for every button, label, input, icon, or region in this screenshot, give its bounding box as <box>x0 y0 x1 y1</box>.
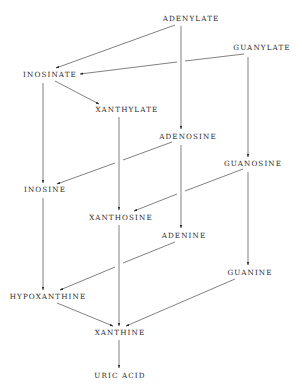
node-adenine: ADENINE <box>161 231 207 240</box>
edge-adenosine-inosine-b <box>57 163 115 184</box>
node-adenylate: ADENYLATE <box>162 14 220 23</box>
node-xanthylate: XANTHYLATE <box>96 105 159 114</box>
edge-adenosine-inosine-a <box>123 142 172 160</box>
edge-guanosine-xanthosine-b <box>134 194 177 211</box>
edge-adenine-hypoxanthine-a <box>123 242 175 263</box>
edge-adenylate-inosinate <box>56 25 175 68</box>
node-guanylate: GUANYLATE <box>233 43 290 52</box>
edge-guanine-xanthine <box>126 279 235 326</box>
node-inosine: INOSINE <box>24 185 66 194</box>
edge-hypoxanthine-xanthine <box>57 303 113 326</box>
edge-guanylate-inosinate-a <box>185 54 244 61</box>
nodes: ADENYLATE GUANYLATE INOSINATE XANTHYLATE… <box>10 14 291 380</box>
node-xanthosine: XANTHOSINE <box>89 213 153 222</box>
node-guanine: GUANINE <box>227 268 272 277</box>
node-inosinate: INOSINATE <box>23 70 77 79</box>
edge-guanosine-xanthosine-a <box>185 169 243 191</box>
node-adenosine: ADENOSINE <box>158 132 217 141</box>
node-xanthine: XANTHINE <box>95 328 146 337</box>
edge-guanylate-inosinate-b <box>80 62 177 74</box>
node-guanosine: GUANOSINE <box>224 159 282 168</box>
edge-inosinate-xanthylate <box>55 81 99 104</box>
node-uric-acid: URIC ACID <box>94 371 145 380</box>
edge-adenine-hypoxanthine-b <box>60 267 115 290</box>
node-hypoxanthine: HYPOXANTHINE <box>10 292 87 301</box>
purine-degradation-diagram: ADENYLATE GUANYLATE INOSINATE XANTHYLATE… <box>0 0 302 392</box>
